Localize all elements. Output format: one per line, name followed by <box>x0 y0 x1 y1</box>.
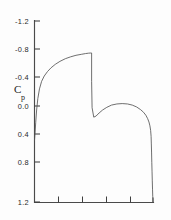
y-tick-label-6: 1.2 <box>18 198 29 207</box>
cp-data-curve <box>35 53 154 202</box>
y-tick-label-5: 0.8 <box>18 158 29 167</box>
y-axis-tick-marks <box>35 21 41 202</box>
pressure-coefficient-chart: -1.2 -0.8 -0.4 0.0 0.4 0.8 1.2 C p <box>0 0 171 220</box>
y-tick-label-0: -1.2 <box>15 17 29 26</box>
y-axis-tick-labels: -1.2 -0.8 -0.4 0.0 0.4 0.8 1.2 <box>15 17 29 207</box>
axis-lines <box>35 21 154 203</box>
y-tick-label-3: 0.0 <box>18 102 29 111</box>
y-tick-label-4: 0.4 <box>18 130 29 139</box>
x-axis-tick-marks <box>59 197 154 203</box>
y-axis-title: C p <box>14 83 25 102</box>
cp-plot-figure: -1.2 -0.8 -0.4 0.0 0.4 0.8 1.2 C p <box>0 0 171 220</box>
y-tick-label-1: -0.8 <box>15 45 29 54</box>
y-axis-title-subscript: p <box>21 93 25 102</box>
y-tick-label-2: -0.4 <box>15 73 29 82</box>
